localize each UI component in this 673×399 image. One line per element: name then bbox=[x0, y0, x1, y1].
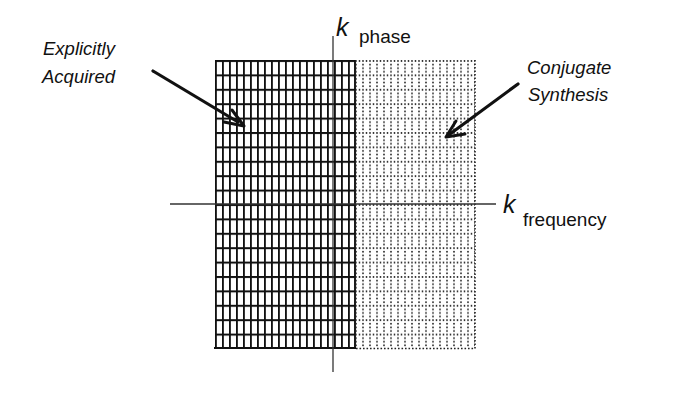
acquired-label-line-1: Explicitly bbox=[43, 38, 117, 59]
acquired-annotation: Explicitly Acquired bbox=[41, 38, 244, 126]
kspace-diagram: k phase k frequency Explicitly Acquired … bbox=[0, 0, 673, 399]
acquired-label-line-2: Acquired bbox=[41, 66, 116, 87]
phase-axis-symbol: k bbox=[336, 13, 350, 41]
frequency-axis-subscript: frequency bbox=[523, 209, 607, 230]
phase-axis-label: k phase bbox=[336, 13, 411, 47]
frequency-axis-label: k frequency bbox=[503, 190, 607, 230]
synthesized-label-line-1: Conjugate bbox=[527, 57, 611, 78]
synthesized-label-line-2: Synthesis bbox=[528, 84, 608, 105]
phase-axis-subscript: phase bbox=[359, 26, 411, 47]
frequency-axis-symbol: k bbox=[503, 190, 517, 218]
